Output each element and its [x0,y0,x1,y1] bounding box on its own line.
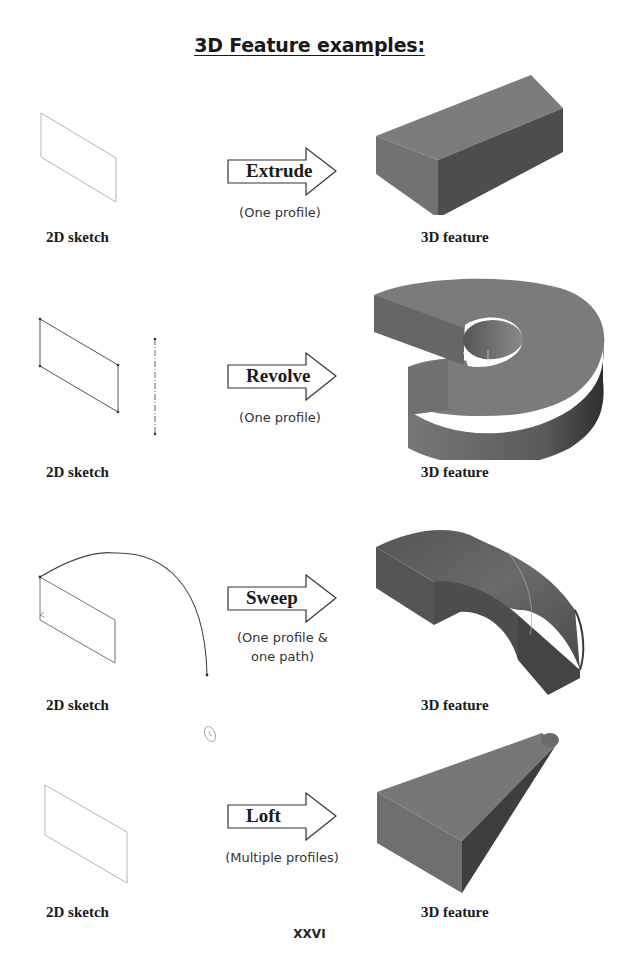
profile-with-axis-icon [0,270,180,450]
example-sweep: Sweep (One profile & one path) 2D sketch… [0,500,619,730]
profile-with-path-icon [0,500,230,690]
feature-description: (One profile) [225,203,335,222]
example-loft: Loft (Multiple profiles) 2D sketch 3D fe… [0,730,619,930]
page-number: XXVI [0,927,619,941]
feature-description: (One profile) [225,408,335,427]
swept-bend-icon [370,500,610,700]
feature-label: 3D feature [421,229,489,246]
rectangular-block-icon [370,70,580,215]
parallelogram-profile-icon [0,730,150,900]
feature-name: Sweep [246,587,298,609]
sketch-label: 2D sketch [46,464,109,481]
example-extrude: Extrude (One profile) 2D sketch 3D featu… [0,70,619,250]
feature-name: Extrude [246,160,313,182]
parallelogram-profile-icon [0,70,150,210]
page-title: 3D Feature examples: [0,34,619,56]
clock-mark-icon [200,723,224,747]
feature-name: Revolve [246,365,310,387]
lofted-taper-icon [370,730,590,900]
example-revolve: Revolve (One profile) 2D sketch 3D featu… [0,270,619,490]
sweep-arrow: Sweep [227,574,339,630]
arrow-right-icon [227,792,339,844]
loft-arrow: Loft [227,792,339,848]
feature-description-line2: one path) [225,647,340,666]
sketch-label: 2D sketch [46,229,109,246]
feature-description: (Multiple profiles) [222,848,342,867]
revolve-arrow: Revolve [227,352,339,408]
feature-label: 3D feature [421,904,489,921]
feature-label: 3D feature [421,464,489,481]
extrude-arrow: Extrude [227,147,339,203]
feature-name: Loft [246,805,281,827]
sketch-label: 2D sketch [46,904,109,921]
sketch-label: 2D sketch [46,697,109,714]
revolved-ring-icon [370,270,610,460]
feature-description-line1: (One profile & [225,628,340,647]
